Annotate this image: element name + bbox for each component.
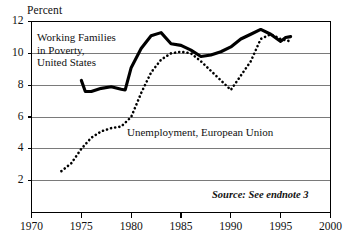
y-axis-tick-label: 10 <box>2 46 24 58</box>
series-label-working-families: Working Families in Poverty, United Stat… <box>37 31 116 69</box>
x-axis-tick-label: 1980 <box>111 220 151 232</box>
y-axis-tick-label: 4 <box>2 141 24 153</box>
x-axis-tick-label: 1975 <box>61 220 101 232</box>
x-axis-tick-label: 1970 <box>12 220 52 232</box>
x-axis-tick-label: 1995 <box>261 220 301 232</box>
series-label-us-line2: in Poverty, <box>37 44 116 57</box>
x-axis-tick-label: 2000 <box>311 220 351 232</box>
x-axis-tick-label: 1985 <box>161 220 201 232</box>
x-axis-tick-label: 1990 <box>211 220 251 232</box>
y-axis-tick-label: 6 <box>2 110 24 122</box>
y-axis-tick-label: 12 <box>2 14 24 26</box>
series-label-us-line1: Working Families <box>37 31 116 44</box>
series-label-us-line3: United States <box>37 56 116 69</box>
source-note: Source: See endnote 3 <box>212 189 309 200</box>
y-axis-tick-label: 8 <box>2 78 24 90</box>
y-axis-tick-label: 2 <box>2 173 24 185</box>
series-label-unemployment-eu: Unemployment, European Union <box>127 126 273 139</box>
chart-figure: Percent Working Families in Poverty, Uni… <box>0 0 353 245</box>
